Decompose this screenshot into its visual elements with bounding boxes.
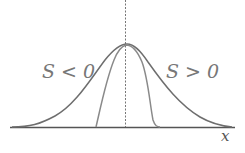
- narrow-curve: [96, 45, 160, 127]
- wide-curve: [12, 44, 232, 127]
- right-label: S > 0: [166, 60, 219, 82]
- x-axis-label: x: [221, 127, 229, 145]
- diagram: S < 0 S > 0 x: [0, 0, 245, 153]
- left-label: S < 0: [42, 60, 95, 82]
